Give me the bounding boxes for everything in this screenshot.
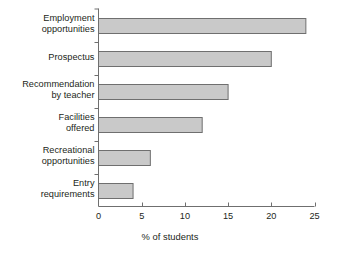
x-tick-label: 20 (266, 211, 276, 221)
x-tick-label: 5 (139, 211, 144, 221)
bars-group (99, 19, 306, 199)
x-tick-label: 0 (96, 211, 101, 221)
category-label: Entry requirements (0, 178, 95, 199)
x-tick-label: 25 (309, 211, 319, 221)
x-tick-label: 15 (223, 211, 233, 221)
bar (99, 85, 229, 100)
category-label: Recommendation by teacher (0, 79, 95, 100)
category-label: Prospectus (0, 52, 95, 63)
bar (99, 52, 272, 67)
bar (99, 19, 306, 34)
category-label: Employment opportunities (0, 13, 95, 34)
axes-group (95, 9, 316, 207)
x-tick-label: 10 (180, 211, 190, 221)
category-label: Facilities offered (0, 112, 95, 133)
bar (99, 184, 134, 199)
category-label: Recreational opportunities (0, 145, 95, 166)
x-axis-title: % of students (0, 231, 340, 242)
bar-chart: Employment opportunitiesProspectusRecomm… (0, 0, 340, 253)
bar (99, 118, 203, 133)
bar (99, 151, 151, 166)
